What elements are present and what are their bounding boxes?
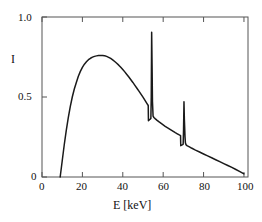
xtick-label-20: 20 xyxy=(76,181,87,192)
spectrum-curve xyxy=(60,32,244,177)
y-axis-title: I xyxy=(11,53,15,65)
x-axis-title: E [keV] xyxy=(113,199,151,211)
ytick-label-1-0: 1.0 xyxy=(18,12,32,23)
xtick-label-100: 100 xyxy=(237,181,254,192)
xray-spectrum-figure: 1.0 0.5 0 0 20 40 60 80 100 I E [keV] xyxy=(0,0,262,222)
xtick-label-60: 60 xyxy=(158,181,169,192)
xtick-label-80: 80 xyxy=(199,181,210,192)
xtick-label-40: 40 xyxy=(117,181,128,192)
xtick-label-0: 0 xyxy=(39,181,45,192)
ytick-label-0-5: 0.5 xyxy=(18,91,32,102)
ytick-label-0: 0 xyxy=(31,171,37,182)
